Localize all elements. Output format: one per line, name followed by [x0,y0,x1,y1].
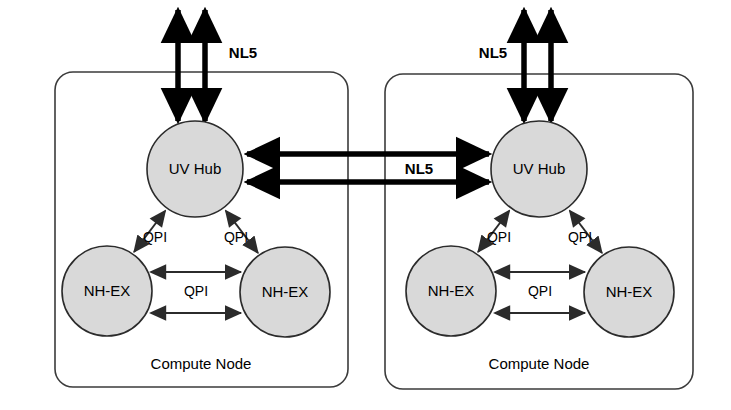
diagram-canvas: UV Hub NH-EX NH-EX UV Hub NH-EX NH-EX QP… [0,0,731,410]
topology-diagram: UV Hub NH-EX NH-EX UV Hub NH-EX NH-EX QP… [0,0,731,410]
qpi-label-right-3: QPI [528,283,552,299]
compute-node-label-left: Compute Node [151,355,252,372]
compute-node-label-right: Compute Node [489,355,590,372]
qpi-label-left-1: QPI [143,229,167,245]
qpi-label-left-2: QPI [224,229,248,245]
chip-label-uv-hub-left: UV Hub [169,160,222,177]
chip-label-nh-ex-right-b: NH-EX [606,283,653,300]
nl5-label-internode: NL5 [405,160,433,177]
compute-node-box-left [55,72,348,387]
qpi-label-right-1: QPI [487,229,511,245]
chip-label-uv-hub-right: UV Hub [513,160,566,177]
qpi-label-right-2: QPI [568,229,592,245]
qpi-label-left-3: QPI [184,283,208,299]
chip-label-nh-ex-left-b: NH-EX [262,283,309,300]
nl5-label-external-right: NL5 [479,44,507,61]
chip-label-nh-ex-right-a: NH-EX [428,282,475,299]
chip-label-nh-ex-left-a: NH-EX [84,282,131,299]
nl5-label-external-left: NL5 [229,44,257,61]
